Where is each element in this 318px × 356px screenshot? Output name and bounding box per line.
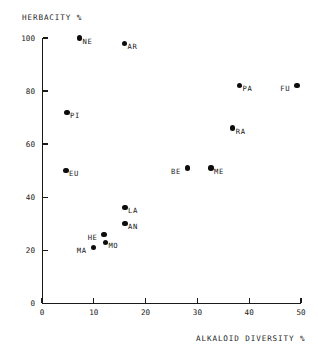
- data-point-label: HE: [88, 233, 98, 242]
- data-point-marker: [230, 125, 235, 130]
- data-point-label: EU: [69, 169, 79, 178]
- y-tick-label: 100: [11, 34, 35, 43]
- data-point-label: RA: [236, 127, 246, 136]
- y-tick-mark: [43, 37, 48, 38]
- data-point-label: BE: [171, 167, 181, 176]
- data-point-label: AN: [128, 222, 138, 231]
- x-tick-mark: [41, 298, 42, 303]
- scatter-plot-figure: HERBACITY % ALKALOID DIVERSITY % 0204060…: [0, 0, 318, 356]
- data-point-marker: [122, 221, 127, 226]
- data-point-label: FU: [280, 84, 290, 93]
- y-tick-mark: [43, 90, 48, 91]
- data-point-marker: [237, 83, 242, 88]
- data-point-marker: [101, 232, 106, 237]
- x-tick-mark: [145, 298, 146, 303]
- y-tick-mark: [43, 303, 48, 304]
- data-point-label: NE: [82, 37, 92, 46]
- data-point-label: MA: [77, 246, 87, 255]
- data-point-marker: [64, 110, 69, 115]
- y-tick-mark: [43, 143, 48, 144]
- x-tick-mark: [300, 298, 301, 303]
- data-point-marker: [122, 41, 127, 46]
- data-point-marker: [103, 240, 108, 245]
- x-tick-label: 40: [237, 308, 261, 317]
- y-tick-label: 60: [11, 140, 35, 149]
- data-point-label: PI: [70, 111, 80, 120]
- x-tick-label: 50: [289, 308, 313, 317]
- x-axis-line: [42, 303, 301, 304]
- data-point-label: MO: [108, 241, 118, 250]
- y-axis-line: [42, 38, 43, 304]
- y-tick-label: 40: [11, 193, 35, 202]
- x-tick-label: 0: [30, 308, 54, 317]
- y-tick-label: 20: [11, 246, 35, 255]
- x-tick-label: 30: [185, 308, 209, 317]
- x-tick-mark: [93, 298, 94, 303]
- y-tick-mark: [43, 197, 48, 198]
- x-tick-mark: [249, 298, 250, 303]
- data-point-marker: [91, 245, 96, 250]
- data-point-marker: [185, 165, 190, 170]
- data-point-label: LA: [128, 206, 138, 215]
- y-axis-title: HERBACITY %: [22, 13, 82, 22]
- data-point-label: PA: [243, 84, 253, 93]
- data-point-marker: [122, 205, 127, 210]
- data-point-marker: [77, 35, 82, 40]
- y-tick-label: 0: [11, 299, 35, 308]
- data-point-label: AR: [128, 42, 138, 51]
- data-point-label: ME: [214, 167, 224, 176]
- data-point-marker: [208, 165, 213, 170]
- x-tick-label: 10: [82, 308, 106, 317]
- x-tick-mark: [197, 298, 198, 303]
- data-point-marker: [63, 168, 68, 173]
- x-axis-title: ALKALOID DIVERSITY %: [196, 334, 305, 343]
- y-tick-label: 80: [11, 87, 35, 96]
- x-tick-label: 20: [134, 308, 158, 317]
- data-point-marker: [294, 83, 299, 88]
- y-tick-mark: [43, 250, 48, 251]
